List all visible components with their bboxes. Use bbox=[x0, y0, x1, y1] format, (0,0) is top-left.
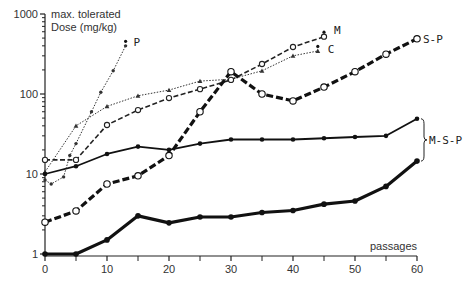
end-marker bbox=[124, 40, 127, 43]
data-point bbox=[415, 116, 420, 121]
data-point bbox=[414, 36, 420, 42]
data-point bbox=[166, 152, 172, 158]
x-tick-label: 10 bbox=[101, 263, 113, 275]
x-tick-label: 60 bbox=[411, 263, 423, 275]
data-point bbox=[50, 182, 53, 185]
data-point bbox=[259, 61, 264, 66]
series-c bbox=[43, 45, 321, 174]
data-point bbox=[68, 154, 71, 157]
series-m-s-p-lower bbox=[42, 158, 420, 257]
series-label-c: C bbox=[328, 43, 335, 56]
x-tick-label: 30 bbox=[225, 263, 237, 275]
data-point bbox=[315, 49, 320, 53]
series-line-s-p bbox=[45, 39, 417, 222]
y-tick-label: 100 bbox=[20, 88, 38, 100]
chart: 1101001000 0102030405060 max. tolerated … bbox=[0, 0, 474, 285]
data-point bbox=[105, 152, 110, 157]
y-axis-title-line-1: max. tolerated bbox=[51, 8, 121, 20]
data-point bbox=[383, 51, 389, 57]
data-point bbox=[74, 123, 79, 127]
data-point bbox=[414, 158, 420, 164]
data-point bbox=[322, 136, 327, 141]
x-tick-label: 20 bbox=[163, 263, 175, 275]
data-point bbox=[167, 88, 172, 92]
data-point bbox=[104, 181, 110, 187]
series-line-m-s-p-lower bbox=[45, 161, 417, 254]
data-point bbox=[74, 142, 77, 145]
y-tick-label: 10 bbox=[26, 168, 38, 180]
data-point bbox=[291, 137, 296, 142]
data-point bbox=[135, 107, 140, 112]
data-point bbox=[197, 214, 203, 220]
series-p bbox=[43, 40, 127, 186]
data-point bbox=[112, 69, 115, 72]
x-tick-label: 0 bbox=[42, 263, 48, 275]
data-point bbox=[321, 201, 327, 207]
data-point bbox=[99, 91, 102, 94]
data-point bbox=[384, 134, 389, 139]
data-point bbox=[290, 98, 296, 104]
data-point bbox=[321, 84, 327, 90]
series-labels: PCMS-PM-S-P bbox=[134, 24, 463, 161]
series-label-p: P bbox=[134, 36, 141, 49]
y-tick-label: 1000 bbox=[14, 8, 38, 20]
series-label-m: M bbox=[334, 24, 341, 37]
data-point bbox=[198, 141, 203, 146]
data-point bbox=[73, 157, 78, 162]
data-point bbox=[166, 95, 171, 100]
data-point bbox=[260, 137, 265, 142]
data-point bbox=[383, 184, 389, 190]
data-point bbox=[290, 44, 295, 49]
x-ticks: 0102030405060 bbox=[42, 256, 423, 275]
data-point bbox=[353, 135, 358, 140]
data-point bbox=[43, 178, 46, 181]
x-tick-label: 50 bbox=[349, 263, 361, 275]
data-point bbox=[259, 91, 265, 97]
series-label-s-p: S-P bbox=[423, 33, 443, 46]
data-point bbox=[43, 172, 48, 177]
data-point bbox=[124, 44, 127, 47]
series-line-m-s-p-upper bbox=[45, 119, 417, 174]
data-point bbox=[74, 164, 79, 169]
series-m bbox=[42, 31, 326, 163]
series-m-s-p-upper bbox=[43, 116, 420, 176]
data-point bbox=[90, 110, 93, 113]
data-point bbox=[104, 237, 110, 243]
series-label-m-s-p: M-S-P bbox=[429, 134, 462, 147]
data-point bbox=[197, 109, 203, 115]
data-point bbox=[42, 157, 47, 162]
data-point bbox=[166, 220, 172, 226]
x-axis-title: passages bbox=[370, 240, 418, 252]
data-point bbox=[321, 34, 326, 39]
data-point bbox=[62, 175, 65, 178]
data-point bbox=[42, 219, 48, 225]
data-point bbox=[197, 87, 202, 92]
data-point bbox=[73, 251, 79, 257]
end-marker bbox=[322, 31, 325, 34]
data-point bbox=[42, 251, 48, 257]
y-ticks: 1101001000 bbox=[14, 8, 45, 260]
series-line-c bbox=[45, 51, 318, 172]
data-point bbox=[290, 208, 296, 214]
data-point bbox=[167, 148, 172, 153]
data-point bbox=[259, 210, 265, 216]
data-point bbox=[352, 198, 358, 204]
data-point bbox=[135, 213, 141, 219]
data-point bbox=[228, 77, 233, 82]
data-point bbox=[228, 68, 234, 74]
data-point bbox=[104, 122, 109, 127]
x-tick-label: 40 bbox=[287, 263, 299, 275]
y-tick-label: 1 bbox=[32, 248, 38, 260]
bracket-m-s-p bbox=[421, 119, 427, 161]
y-axis-title-line-2: Dose (mg/kg) bbox=[51, 21, 117, 33]
data-point bbox=[229, 137, 234, 142]
data-point bbox=[228, 214, 234, 220]
data-point bbox=[73, 208, 79, 214]
data-point bbox=[136, 144, 141, 149]
end-marker bbox=[316, 45, 319, 48]
data-point bbox=[352, 68, 358, 74]
data-point bbox=[260, 68, 265, 72]
series-layer bbox=[42, 31, 420, 257]
data-point bbox=[135, 173, 141, 179]
